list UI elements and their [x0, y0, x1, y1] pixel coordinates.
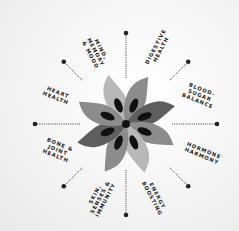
spoke-line [170, 62, 188, 80]
spoke-line [64, 168, 82, 186]
spoke-line [64, 62, 82, 80]
center-hub [122, 120, 130, 128]
spoke-dot [186, 59, 191, 64]
health-benefits-diagram: MIND, MEMORY & MOOD DIGESTIVE HEALTH BLO… [0, 0, 239, 231]
spoke-dot [186, 184, 191, 189]
spoke-line [170, 168, 188, 186]
spoke-dot [61, 59, 66, 64]
radial-diagram-graphic [0, 0, 239, 231]
spoke-dot [61, 184, 66, 189]
spoke-dot [215, 122, 220, 127]
spoke-dot [33, 122, 38, 127]
spoke-dot [124, 213, 129, 218]
spoke-dot [124, 31, 129, 36]
star-flower-icon [74, 72, 178, 176]
